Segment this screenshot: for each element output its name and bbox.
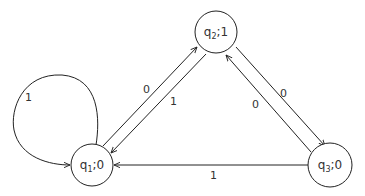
edge-label-q1-q1: 1 [25,92,32,103]
edge-label-q2-q3: 0 [280,88,287,99]
edge-label-q1-q2: 0 [143,84,150,95]
state-q1-label: q1;0 [80,159,104,174]
edge-q1-q2 [103,47,197,146]
edge-label-q2-q1: 1 [170,96,177,107]
edge-label-q3-q1: 1 [210,170,217,181]
diagram-graphics [0,0,365,196]
state-q2-label: q2;1 [204,26,228,41]
edge-q3-q2 [226,55,311,152]
state-diagram: q1;0 q2;1 q3;0 1 0 1 0 0 1 [0,0,365,196]
state-q3-label: q3;0 [318,159,342,174]
edge-q2-q1 [111,54,206,153]
edge-label-q3-q2: 0 [252,99,259,110]
